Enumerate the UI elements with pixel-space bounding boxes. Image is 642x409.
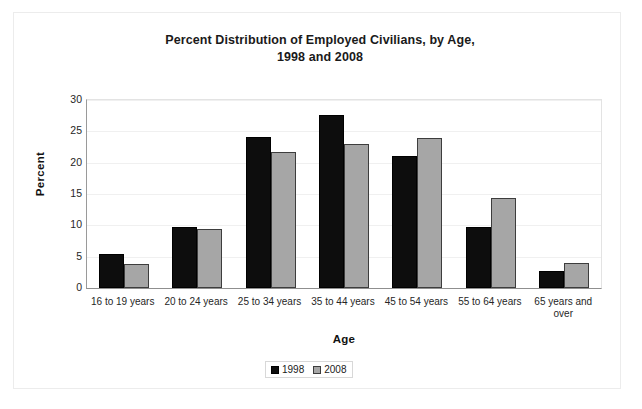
bar-1998-5 — [392, 156, 417, 288]
y-axis-title: Percent — [34, 129, 46, 219]
y-axis-tick-label: 5 — [54, 250, 82, 262]
y-axis-tick-label: 20 — [54, 156, 82, 168]
legend-swatch-icon-1998 — [271, 366, 279, 374]
bar-1998-3 — [246, 137, 271, 288]
x-axis-tick-label: 55 to 64 years — [453, 296, 526, 308]
bar-1998-1 — [99, 254, 124, 288]
legend-item-2008: 2008 — [313, 364, 346, 375]
y-axis-tick-label: 25 — [54, 124, 82, 136]
chart-title-line-2: 1998 and 2008 — [60, 49, 580, 66]
x-axis-tick-label: 45 to 54 years — [380, 296, 453, 308]
chart-title-line-1: Percent Distribution of Employed Civilia… — [60, 32, 580, 49]
plot-inner — [87, 100, 601, 288]
x-axis-tick-label: 20 to 24 years — [159, 296, 232, 308]
legend-swatch-icon-2008 — [313, 366, 321, 374]
bar-1998-6 — [466, 227, 491, 288]
bar-2008-1 — [124, 264, 149, 288]
bar-1998-4 — [319, 115, 344, 288]
x-axis-tick-labels: 16 to 19 years20 to 24 years25 to 34 yea… — [86, 296, 602, 330]
x-axis-tick-label: 16 to 19 years — [86, 296, 159, 308]
bar-2008-5 — [417, 138, 442, 288]
x-axis-tick-label: 25 to 34 years — [233, 296, 306, 308]
legend-label-2008: 2008 — [324, 364, 346, 375]
plot-area — [86, 99, 602, 289]
x-axis-tick-label: 65 years and over — [527, 296, 600, 320]
gridline — [87, 100, 601, 101]
y-axis-tick-label: 10 — [54, 218, 82, 230]
bar-2008-3 — [271, 152, 296, 288]
y-axis-tick-label: 0 — [54, 281, 82, 293]
y-axis-tick-label: 15 — [54, 187, 82, 199]
y-axis-tick-label: 30 — [54, 93, 82, 105]
chart-legend: 1998 2008 — [265, 361, 353, 378]
chart-title: Percent Distribution of Employed Civilia… — [60, 32, 580, 66]
x-axis-title: Age — [86, 333, 602, 345]
bar-1998-7 — [539, 271, 564, 288]
bar-2008-4 — [344, 144, 369, 288]
bar-1998-2 — [172, 227, 197, 288]
bar-2008-2 — [197, 229, 222, 288]
chart-page: Percent Distribution of Employed Civilia… — [0, 0, 642, 409]
gridline — [87, 131, 601, 132]
bar-2008-7 — [564, 263, 589, 288]
legend-label-1998: 1998 — [282, 364, 304, 375]
x-axis-tick-label: 35 to 44 years — [306, 296, 379, 308]
y-axis-tick-labels: 051015202530 — [54, 99, 82, 289]
bar-2008-6 — [491, 198, 516, 288]
legend-item-1998: 1998 — [271, 364, 304, 375]
